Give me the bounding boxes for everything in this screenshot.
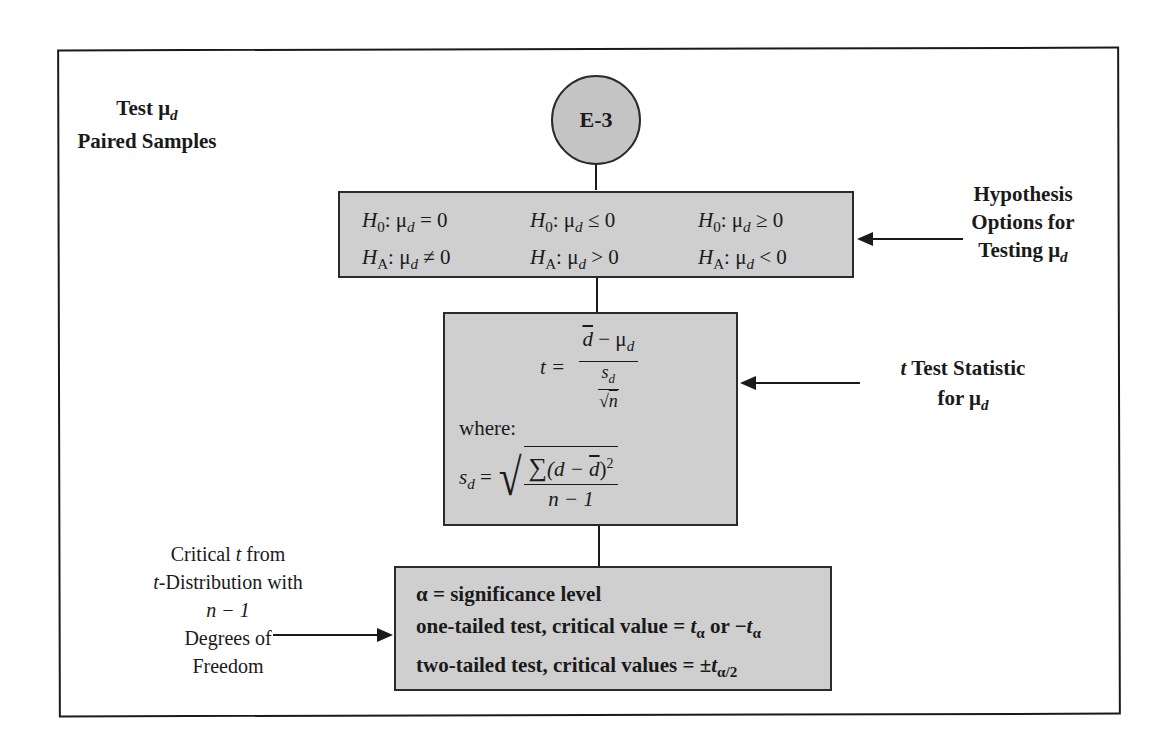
critical-value-box: α = significance level one-tailed test, …	[394, 566, 832, 691]
ha-option-2: HA: μd > 0	[530, 242, 698, 279]
diagram-title: Test μd Paired Samples	[72, 95, 222, 154]
label-line-3: Testing μd	[948, 236, 1098, 271]
label-line-3: n − 1	[118, 596, 338, 624]
significance-level-line: α = significance level	[416, 578, 761, 610]
t-statistic-label: t Test Statistic for μd	[868, 353, 1058, 420]
hypothesis-options-label: Hypothesis Options for Testing μd	[948, 180, 1098, 271]
t-formula: t = d − μd sd √n	[540, 324, 638, 412]
one-tailed-line: one-tailed test, critical value = tα or …	[416, 610, 761, 649]
mu-symbol: μ	[1048, 238, 1060, 262]
sd-formula: sd = √ ∑(d − d)2 n − 1	[459, 446, 618, 513]
title-line-2: Paired Samples	[72, 128, 222, 154]
sd-sqrt: √ ∑(d − d)2 n − 1	[496, 446, 618, 513]
ha-option-1: HA: μd ≠ 0	[362, 242, 530, 279]
sum-symbol: ∑	[528, 453, 547, 482]
t-statistic-box: t = d − μd sd √n where: sd = √ ∑(d − d)2…	[443, 312, 738, 526]
label-line-5: Freedom	[118, 652, 338, 680]
connector-tstat-to-critical	[598, 525, 600, 566]
arrow-to-critical-value-box	[273, 634, 391, 636]
mu-symbol: μ	[158, 96, 170, 120]
arrow-to-t-statistic-box	[742, 382, 860, 384]
label-line-1: t Test Statistic	[868, 353, 1058, 383]
critical-t-label: Critical t from t-Distribution with n − …	[118, 540, 338, 680]
label-line-2: t-Distribution with	[118, 568, 338, 596]
h0-option-2: H0: μd ≤ 0	[530, 205, 698, 242]
title-line-1: Test μd	[72, 95, 222, 128]
subscript-d: d	[170, 107, 178, 123]
critical-value-text: α = significance level one-tailed test, …	[416, 578, 761, 689]
connector-hypothesis-to-tstat	[596, 278, 598, 312]
hypothesis-grid: H0: μd = 0 H0: μd ≤ 0 H0: μd ≥ 0 HA: μd …	[362, 205, 832, 280]
two-tailed-line: two-tailed test, critical values = ±tα/2	[416, 649, 761, 688]
label-line-2: Options for	[948, 208, 1098, 236]
h0-option-1: H0: μd = 0	[362, 205, 530, 242]
t-denominator: sd √n	[598, 362, 620, 412]
mu-symbol: μ	[969, 386, 981, 410]
label-line-1: Hypothesis	[948, 180, 1098, 208]
title-prefix: Test	[116, 96, 158, 120]
sqrt-symbol: √	[599, 391, 609, 411]
node-id-label: E-3	[580, 107, 613, 133]
t-numerator: d − μd	[579, 324, 639, 362]
ha-option-3: HA: μd < 0	[698, 242, 858, 279]
t-lhs: t =	[540, 355, 565, 379]
node-e3-circle: E-3	[551, 75, 641, 165]
label-line-1: Critical t from	[118, 540, 338, 568]
radical-icon: √	[499, 446, 522, 513]
h0-option-3: H0: μd ≥ 0	[698, 205, 858, 242]
connector-circle-to-hypothesis	[595, 165, 597, 190]
where-label: where:	[459, 416, 516, 441]
t-fraction: d − μd sd √n	[579, 324, 639, 412]
label-line-2: for μd	[868, 383, 1058, 420]
hypothesis-options-box: H0: μd = 0 H0: μd ≤ 0 H0: μd ≥ 0 HA: μd …	[338, 191, 854, 278]
label-line-4: Degrees of	[118, 624, 338, 652]
sd-lhs: sd =	[459, 465, 492, 493]
sd-fraction: ∑(d − d)2 n − 1	[524, 446, 617, 513]
